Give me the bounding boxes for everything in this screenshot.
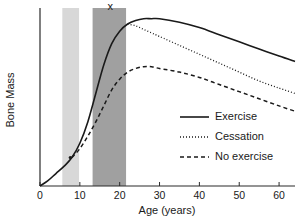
bone-mass-vs-age-chart: x 0102030405060 Age (years) Bone Mass Ex… <box>0 0 301 222</box>
x-tick-label-20: 20 <box>114 189 126 201</box>
legend-label-cessation: Cessation <box>215 130 264 142</box>
chart-legend: Exercise Cessation No exercise <box>180 110 273 162</box>
chart-svg: x 0102030405060 Age (years) Bone Mass Ex… <box>0 0 301 222</box>
legend-label-exercise: Exercise <box>215 110 257 122</box>
x-tick-label-30: 30 <box>154 189 166 201</box>
x-tick-label-50: 50 <box>233 189 245 201</box>
y-axis-title: Bone Mass <box>4 72 16 128</box>
x-tick-label-60: 60 <box>273 189 285 201</box>
shaded-band-dark <box>93 8 126 186</box>
legend-label-no-exercise: No exercise <box>215 150 273 162</box>
x-tick-label-10: 10 <box>74 189 86 201</box>
x-tick-label-40: 40 <box>194 189 206 201</box>
x-tick-label-0: 0 <box>37 189 43 201</box>
divergence-dot-marker <box>69 156 72 159</box>
x-axis-tick-labels: 0102030405060 <box>37 189 285 201</box>
curve-cessation <box>128 24 295 93</box>
peak-bone-mass-x-label: x <box>107 0 113 12</box>
x-axis-title: Age (years) <box>139 204 196 216</box>
